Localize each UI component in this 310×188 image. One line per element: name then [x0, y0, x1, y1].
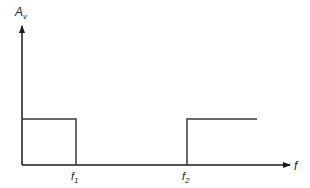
passband-low — [22, 119, 76, 165]
band-stop-response-diagram: Av f f1 f2 — [0, 0, 310, 188]
passband-high — [187, 119, 257, 165]
marker-f2-label: f2 — [182, 170, 190, 185]
x-axis-label: f — [294, 159, 299, 173]
marker-f1-label: f1 — [71, 170, 79, 185]
diagram-canvas: Av f f1 f2 — [0, 0, 310, 188]
y-axis-label: Av — [14, 5, 28, 21]
